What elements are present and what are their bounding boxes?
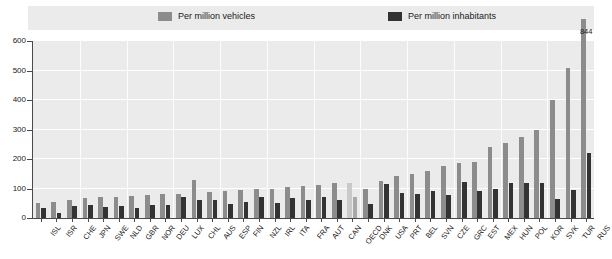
bar-lux-vehicles [176,194,181,218]
bar-ita-inhabitants [290,198,295,218]
bar-gbr-vehicles [129,196,134,218]
bar-tur-vehicles [566,68,571,218]
bar-che-inhabitants [72,206,77,218]
x-tick-label-deu: DEU [176,224,192,241]
x-tick-mark [352,219,353,222]
x-tick-label-bel: BEL [424,224,439,240]
bar-kor-vehicles [534,130,539,219]
x-tick-label-lux: LUX [191,224,206,240]
bar-grc-vehicles [457,163,462,218]
bar-prt-vehicles [394,176,399,218]
bar-dnk-inhabitants [368,204,373,218]
y-tick-mark [27,130,33,131]
x-tick-mark [430,219,431,222]
x-tick-label-svk: SVK [565,224,581,241]
x-tick-mark [462,219,463,222]
bar-oecd-inhabitants [353,197,358,218]
x-tick-label-che: CHE [82,224,98,241]
y-tick-label: 400 [0,96,26,104]
x-tick-label-fin: FIN [252,224,266,238]
bar-usa-vehicles [379,181,384,218]
plot-area [33,41,594,218]
x-tick-mark [368,219,369,222]
x-tick-mark [384,219,385,222]
bar-che-vehicles [67,200,72,218]
legend-label-inhabitants: Per million inhabitants [408,11,496,21]
x-tick-mark [306,219,307,222]
bar-jpn-inhabitants [88,205,93,218]
bar-gbr-inhabitants [135,208,140,218]
x-tick-mark [72,219,73,222]
x-tick-label-fra: FRA [315,224,331,241]
gridline-vertical [127,41,128,218]
x-tick-mark [399,219,400,222]
bar-hun-vehicles [503,143,508,218]
x-tick-mark [571,219,572,222]
y-tick-label: 0 [0,214,26,222]
x-tick-mark [290,219,291,222]
y-tick-mark [27,218,33,219]
bar-nzl-vehicles [254,189,259,218]
bar-isl-inhabitants [41,208,46,218]
gridline-vertical [267,41,268,218]
bar-fin-inhabitants [244,202,249,218]
x-tick-mark [119,219,120,222]
x-tick-mark [41,219,42,222]
bar-fra-inhabitants [306,200,311,218]
x-tick-mark [212,219,213,222]
x-tick-label-can: CAN [347,224,363,241]
bar-can-vehicles [332,183,337,218]
bar-deu-vehicles [160,194,165,218]
x-tick-label-kor: KOR [550,224,566,242]
bar-nor-inhabitants [150,205,155,218]
y-tick-label: 500 [0,67,26,75]
y-tick-label: 200 [0,155,26,163]
gridline-vertical [407,41,408,218]
x-tick-mark [103,219,104,222]
x-tick-mark [508,219,509,222]
x-tick-mark [539,219,540,222]
x-tick-label-prt: PRT [409,224,424,241]
bar-grc-inhabitants [462,182,467,218]
bar-bel-vehicles [410,174,415,218]
bar-est-vehicles [472,162,477,218]
bar-aus-vehicles [207,192,212,218]
bar-chl-inhabitants [197,200,202,218]
bar-swe-vehicles [98,197,103,218]
bar-fin-vehicles [238,190,243,218]
bar-esp-inhabitants [228,204,233,218]
x-tick-label-ita: ITA [298,224,311,238]
bar-tur-inhabitants [571,190,576,218]
x-tick-mark [477,219,478,222]
x-tick-mark [165,219,166,222]
bar-irl-inhabitants [275,203,280,218]
bar-isr-vehicles [51,202,56,218]
bar-rus-vehicles [581,19,586,218]
bar-chl-vehicles [192,180,197,218]
x-tick-label-nzl: NZL [268,224,283,240]
x-tick-mark [197,219,198,222]
gridline-vertical [80,41,81,218]
y-tick-mark [27,71,33,72]
bar-dnk-vehicles [363,189,368,219]
bar-deu-inhabitants [166,205,171,218]
gridline-vertical [454,41,455,218]
x-tick-mark [586,219,587,222]
bar-isl-vehicles [36,203,41,218]
x-tick-label-pol: POL [534,224,550,241]
bar-pol-vehicles [519,137,524,218]
x-tick-label-mex: MEX [503,224,519,242]
legend-swatch-icon-inhabitants [388,12,402,21]
y-tick-mark [27,189,33,190]
x-tick-label-isl: ISL [49,224,62,238]
bar-pol-inhabitants [524,183,529,218]
bar-rus-inhabitants [587,153,592,218]
bar-aut-vehicles [316,185,321,218]
bar-usa-inhabitants [384,184,389,218]
bar-fra-vehicles [301,186,306,218]
y-tick-label: 600 [0,37,26,45]
x-tick-mark [243,219,244,222]
gridline-vertical [173,41,174,218]
x-tick-label-usa: USA [394,224,410,241]
x-tick-mark [134,219,135,222]
